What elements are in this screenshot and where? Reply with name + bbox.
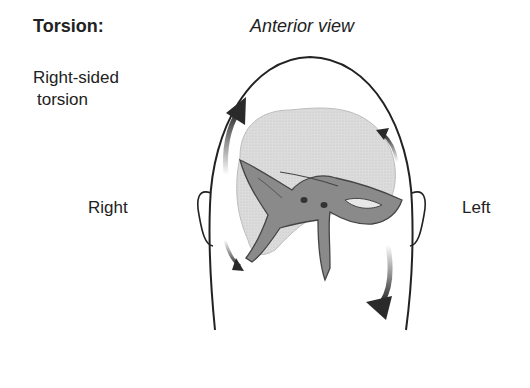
rotation-arrow-left-down-large: [366, 245, 392, 320]
torsion-figure: [0, 0, 530, 388]
rotation-arrow-left-down-small: [225, 240, 244, 271]
